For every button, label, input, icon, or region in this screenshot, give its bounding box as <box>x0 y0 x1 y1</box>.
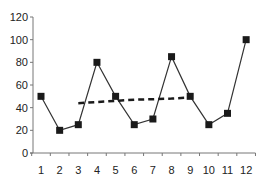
y-tick-label: 120 <box>10 11 28 23</box>
x-tick-label: 5 <box>113 164 119 176</box>
y-tick-label: 0 <box>22 147 28 159</box>
x-tick-label: 6 <box>131 164 137 176</box>
square-marker <box>149 116 156 123</box>
x-tick-label: 12 <box>240 164 252 176</box>
y-tick-label: 100 <box>10 34 28 46</box>
square-marker <box>224 110 231 117</box>
x-tick-label: 10 <box>203 164 215 176</box>
x-tick-label: 9 <box>187 164 193 176</box>
x-tick-label: 1 <box>38 164 44 176</box>
y-tick-label: 40 <box>16 102 28 114</box>
x-tick-label: 4 <box>94 164 100 176</box>
y-axis: 020406080100120 <box>10 11 33 159</box>
y-tick-label: 20 <box>16 124 28 136</box>
x-tick-label: 2 <box>57 164 63 176</box>
y-tick-label: 60 <box>16 79 28 91</box>
square-marker <box>205 121 212 128</box>
x-axis: 123456789101112 <box>30 153 255 176</box>
x-tick-label: 7 <box>150 164 156 176</box>
square-marker <box>112 93 119 100</box>
square-marker <box>56 127 63 134</box>
line-chart: 020406080100120 123456789101112 <box>0 0 261 191</box>
x-tick-label: 11 <box>222 164 233 176</box>
moving-average-line <box>78 97 190 103</box>
square-marker <box>168 53 175 60</box>
y-tick-label: 80 <box>16 56 28 68</box>
x-tick-label: 3 <box>75 164 81 176</box>
square-marker <box>187 93 194 100</box>
series-layer <box>38 36 250 134</box>
x-tick-label: 8 <box>168 164 174 176</box>
square-marker <box>38 93 45 100</box>
square-marker <box>243 36 250 43</box>
data-series-line <box>41 40 246 131</box>
square-marker <box>93 59 100 66</box>
square-marker <box>75 121 82 128</box>
square-marker <box>131 121 138 128</box>
